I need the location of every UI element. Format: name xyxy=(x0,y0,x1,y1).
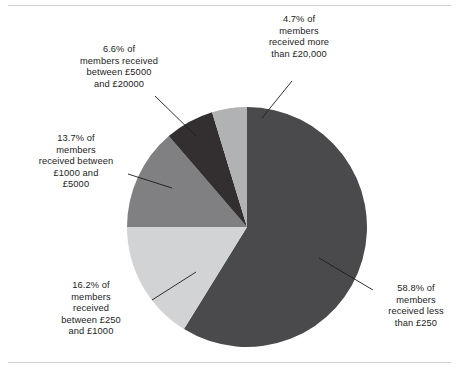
slice-label-less-than-250: 58.8% of members received less than £250 xyxy=(375,283,457,329)
slice-label-between-5000-and-20000: 6.6% of members received between £5000 a… xyxy=(58,44,180,90)
slice-label-between-1000-and-5000: 13.7% of members received between £1000 … xyxy=(20,133,132,191)
pie-chart-figure: 4.7% of members received more than £20,0… xyxy=(0,0,459,374)
slice-label-between-250-and-1000: 16.2% of members received between £250 a… xyxy=(33,280,149,338)
leader-line-5000-to-20000 xyxy=(155,96,196,136)
slice-label-more-than-20000: 4.7% of members received more than £20,0… xyxy=(247,14,351,60)
